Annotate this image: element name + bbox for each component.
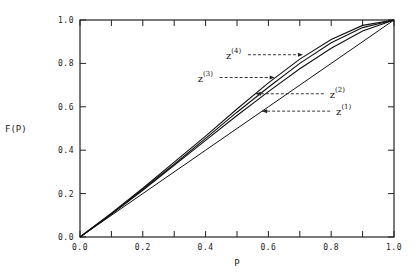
y-axis-label: F(P) — [5, 124, 27, 134]
annotation-superscript: (1) — [341, 103, 351, 111]
annotation-superscript: (2) — [335, 86, 345, 94]
annotation-label-z4: z(4) — [226, 47, 241, 61]
cdf-chart: 0.00.20.40.60.81.00.00.20.40.60.81.0 z(1… — [0, 0, 416, 280]
x-tick-label: 0.4 — [198, 243, 214, 252]
x-tick-label: 0.6 — [260, 243, 276, 252]
y-tick-label: 1.0 — [58, 16, 74, 25]
y-tick-label: 0.2 — [58, 190, 74, 199]
annotation-label-z3: z(3) — [198, 70, 213, 84]
x-tick-label: 0.0 — [72, 243, 88, 252]
x-axis-label: P — [234, 258, 240, 268]
x-tick-label: 0.8 — [323, 243, 339, 252]
x-tick-label: 1.0 — [386, 243, 402, 252]
annotation-superscript: (3) — [203, 70, 213, 78]
y-tick-label: 0.4 — [58, 146, 74, 155]
y-tick-label: 0.6 — [58, 103, 74, 112]
y-tick-label: 0.0 — [58, 233, 74, 242]
annotation-label-z2: z(2) — [330, 86, 345, 100]
annotation-arrow-z4 — [298, 53, 303, 57]
y-tick-label: 0.8 — [58, 59, 74, 68]
annotation-superscript: (4) — [231, 47, 241, 55]
x-tick-label: 0.2 — [135, 243, 151, 252]
annotation-label-z1: z(1) — [336, 103, 351, 117]
